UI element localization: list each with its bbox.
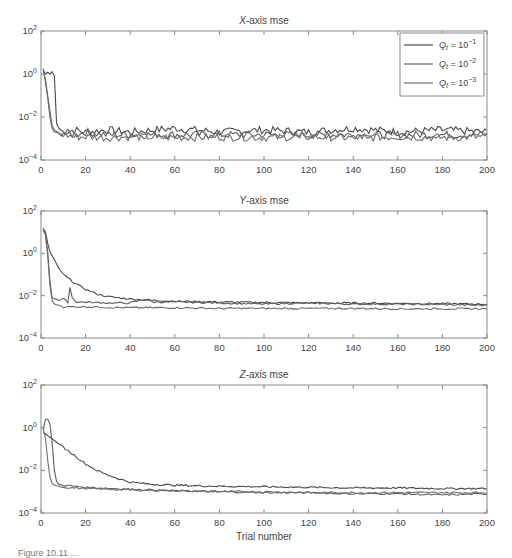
x-tick-label: 100 [256,164,272,175]
x-tick-label: 20 [80,342,91,353]
x-tick-label: 0 [38,342,43,353]
x-tick-label: 140 [345,517,361,528]
x-tick-label: 120 [301,517,317,528]
x-tick-label: 0 [38,517,43,528]
axes-frame [41,385,487,513]
series-line [43,419,487,495]
series-line [43,429,487,494]
x-tick-label: 60 [170,164,181,175]
y-tick-label: 100 [23,246,38,258]
figure-caption: Figure 10.11 ... [18,548,78,558]
x-tick-label: 20 [80,164,91,175]
x-tick-label: 80 [214,164,225,175]
x-tick-label: 180 [434,342,450,353]
x-tick-label: 200 [479,342,495,353]
x-axis-mse-panel: X-axis mse02040608010012014016018020010−… [18,15,494,175]
series-line [43,230,487,310]
x-tick-label: 200 [479,517,495,528]
panel-title: X-axis mse [238,15,289,26]
x-tick-label: 180 [434,164,450,175]
y-tick-label: 10−2 [18,110,37,122]
x-tick-label: 120 [301,164,317,175]
x-tick-label: 60 [170,342,181,353]
x-tick-label: 140 [345,342,361,353]
x-tick-label: 180 [434,517,450,528]
panel-title: Y-axis mse [239,195,289,206]
x-tick-label: 200 [479,164,495,175]
y-tick-label: 100 [23,421,38,433]
legend: Qt = 10−1Qt = 10−2Qt = 10−3 [400,33,484,96]
x-tick-label: 60 [170,517,181,528]
y-tick-label: 10−2 [18,289,37,301]
y-tick-label: 10−2 [18,463,37,475]
y-tick-label: 100 [23,67,38,79]
x-tick-label: 20 [80,517,91,528]
x-tick-label: 40 [125,342,136,353]
axes-frame [41,211,487,338]
y-tick-label: 10−4 [18,506,37,518]
z-axis-mse-panel: Z-axis mse02040608010012014016018020010−… [18,369,494,542]
y-tick-label: 10−4 [18,331,37,343]
y-axis-mse-panel: Y-axis mse02040608010012014016018020010−… [18,195,494,353]
x-tick-label: 160 [390,517,406,528]
y-tick-label: 102 [23,24,38,36]
x-tick-label: 160 [390,342,406,353]
series-line [43,432,487,489]
series-line [43,228,487,304]
x-tick-label: 40 [125,517,136,528]
y-tick-label: 10−4 [18,153,37,165]
panel-title: Z-axis mse [239,369,289,380]
y-tick-label: 102 [23,204,38,216]
x-tick-label: 100 [256,517,272,528]
x-tick-label: 0 [38,164,43,175]
figure: X-axis mse02040608010012014016018020010−… [0,0,512,558]
y-tick-label: 102 [23,378,38,390]
x-tick-label: 40 [125,164,136,175]
x-tick-label: 160 [390,164,406,175]
series-line [43,229,487,306]
x-tick-label: 80 [214,342,225,353]
x-tick-label: 80 [214,517,225,528]
x-tick-label: 120 [301,342,317,353]
x-axis-label: Trial number [236,531,292,542]
x-tick-label: 140 [345,164,361,175]
x-tick-label: 100 [256,342,272,353]
